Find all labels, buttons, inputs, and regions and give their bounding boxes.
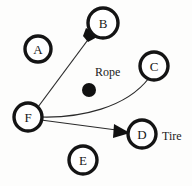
edge-f-to-c-curve [41, 78, 149, 117]
node-f[interactable]: F [14, 103, 42, 131]
node-b[interactable]: B [88, 8, 118, 38]
diagram-canvas: A B C D E F [0, 0, 192, 186]
node-e[interactable]: E [69, 146, 97, 174]
node-a[interactable]: A [25, 36, 51, 62]
node-diagram: A B C D E F [0, 0, 192, 186]
tire-label: Tire [162, 129, 182, 143]
edge-f-to-d[interactable] [41, 120, 130, 138]
node-b-label: B [99, 16, 108, 31]
rope-label: Rope [95, 65, 120, 79]
node-d[interactable]: D [128, 120, 156, 148]
edge-f-to-c[interactable] [41, 78, 149, 117]
rope-blob-icon [82, 83, 96, 97]
node-e-label: E [79, 153, 87, 168]
node-c[interactable]: C [140, 52, 168, 80]
node-a-label: A [33, 42, 43, 57]
node-f-label: F [24, 110, 31, 125]
edge-group [38, 28, 149, 138]
edge-f-to-d-line [41, 120, 124, 131]
node-c-label: C [150, 59, 159, 74]
node-d-label: D [137, 127, 146, 142]
